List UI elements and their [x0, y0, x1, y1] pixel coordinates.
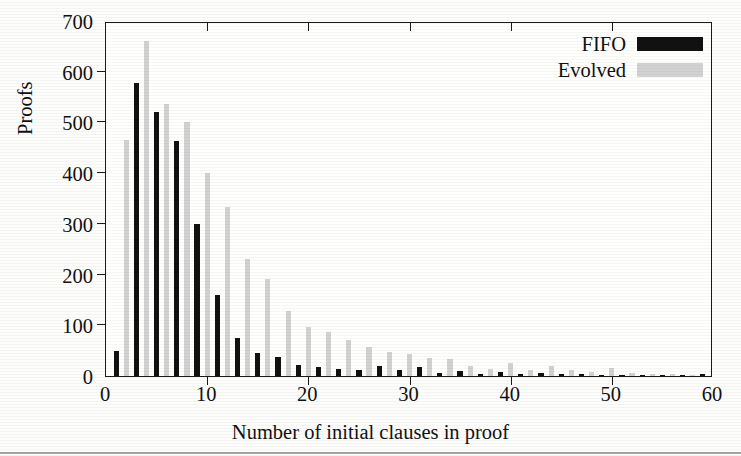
chart-legend: FIFO Evolved: [493, 31, 703, 83]
bar-evolved-x4: [144, 41, 149, 376]
bar-evolved-x42: [528, 370, 533, 376]
bar-fifo-x57: [680, 375, 685, 376]
y-tick-label-100: 100: [62, 316, 93, 336]
bar-evolved-x10: [205, 173, 210, 376]
bar-chart-figure: 0100200300400500600700 Proofs FIFO Evolv…: [0, 0, 741, 456]
bar-evolved-x52: [629, 373, 634, 376]
y-axis-labels: 0100200300400500600700: [0, 0, 105, 377]
legend-swatch-fifo: [637, 37, 703, 51]
bar-fifo-x41: [518, 374, 523, 376]
x-tick-label-30: 30: [398, 384, 419, 404]
x-tick-top-50: [612, 22, 613, 31]
x-tick-top-10: [207, 22, 208, 31]
x-tick-label-20: 20: [297, 384, 318, 404]
bar-fifo-x49: [599, 375, 604, 376]
legend-item-fifo: FIFO: [493, 31, 703, 57]
bar-fifo-x59: [700, 374, 705, 376]
bar-evolved-x26: [366, 347, 371, 376]
y-tick-label-0: 0: [83, 367, 93, 387]
bar-fifo-x29: [397, 370, 402, 376]
bar-evolved-x14: [245, 259, 250, 376]
plot-area: FIFO Evolved: [105, 22, 712, 377]
bar-evolved-x56: [670, 374, 675, 376]
y-tick-label-500: 500: [62, 113, 93, 133]
bar-evolved-x44: [549, 366, 554, 376]
bar-evolved-x12: [225, 207, 230, 376]
bar-fifo-x53: [640, 375, 645, 376]
bar-evolved-x18: [286, 311, 291, 376]
bar-evolved-x2: [124, 140, 129, 376]
bar-evolved-x6: [164, 104, 169, 376]
bar-fifo-x37: [478, 374, 483, 376]
bar-fifo-x17: [275, 357, 280, 376]
bar-fifo-x7: [174, 141, 179, 376]
bar-fifo-x9: [194, 224, 199, 376]
bar-fifo-x1: [114, 351, 119, 376]
bar-evolved-x40: [508, 363, 513, 376]
bar-evolved-x16: [265, 279, 270, 376]
x-tick-label-40: 40: [499, 384, 520, 404]
bar-evolved-x54: [650, 374, 655, 376]
legend-swatch-evolved: [637, 63, 703, 77]
bar-evolved-x30: [407, 354, 412, 376]
y-tick-500: [97, 121, 106, 122]
bar-fifo-x47: [579, 374, 584, 376]
bar-evolved-x32: [427, 358, 432, 376]
x-tick-label-60: 60: [702, 384, 723, 404]
bar-fifo-x13: [235, 338, 240, 376]
bar-evolved-x36: [468, 366, 473, 376]
legend-label-evolved: Evolved: [558, 60, 626, 80]
bar-fifo-x27: [377, 366, 382, 376]
bar-evolved-x24: [346, 340, 351, 377]
bar-evolved-x48: [589, 372, 594, 376]
x-axis-title: Number of initial clauses in proof: [0, 421, 741, 444]
bar-fifo-x23: [336, 369, 341, 376]
y-tick-200: [97, 274, 106, 275]
legend-item-evolved: Evolved: [493, 57, 703, 83]
bar-fifo-x21: [316, 367, 321, 376]
y-tick-label-600: 600: [62, 63, 93, 83]
x-tick-top-20: [308, 22, 309, 31]
y-tick-label-700: 700: [62, 12, 93, 32]
bar-evolved-x34: [447, 359, 452, 376]
bar-fifo-x45: [559, 374, 564, 376]
bar-fifo-x33: [437, 373, 442, 376]
bar-evolved-x20: [306, 327, 311, 376]
bar-fifo-x55: [660, 375, 665, 376]
legend-label-fifo: FIFO: [582, 34, 626, 54]
x-tick-top-30: [410, 22, 411, 31]
y-tick-100: [97, 324, 106, 325]
bar-evolved-x28: [387, 352, 392, 376]
x-tick-label-50: 50: [601, 384, 622, 404]
y-tick-600: [97, 71, 106, 72]
scan-artifact-line: [0, 452, 741, 454]
bar-evolved-x38: [488, 369, 493, 376]
bar-fifo-x5: [154, 112, 159, 376]
x-tick-top-40: [511, 22, 512, 31]
bar-fifo-x43: [538, 373, 543, 376]
y-tick-label-300: 300: [62, 215, 93, 235]
bar-evolved-x58: [690, 375, 695, 376]
bar-fifo-x51: [619, 375, 624, 376]
bar-fifo-x19: [296, 365, 301, 376]
y-tick-300: [97, 223, 106, 224]
bar-fifo-x25: [356, 370, 361, 376]
x-tick-label-0: 0: [100, 384, 110, 404]
bar-fifo-x11: [215, 295, 220, 376]
bar-fifo-x3: [134, 83, 139, 376]
bar-evolved-x50: [609, 368, 614, 376]
bar-fifo-x39: [498, 372, 503, 376]
bar-fifo-x35: [457, 371, 462, 376]
bar-evolved-x46: [569, 370, 574, 376]
bar-evolved-x22: [326, 332, 331, 376]
y-tick-400: [97, 172, 106, 173]
bar-fifo-x15: [255, 353, 260, 376]
y-tick-label-400: 400: [62, 164, 93, 184]
y-axis-title: Proofs: [14, 81, 37, 135]
bar-evolved-x8: [184, 122, 189, 376]
y-tick-label-200: 200: [62, 266, 93, 286]
bar-fifo-x31: [417, 367, 422, 376]
x-tick-label-10: 10: [196, 384, 217, 404]
